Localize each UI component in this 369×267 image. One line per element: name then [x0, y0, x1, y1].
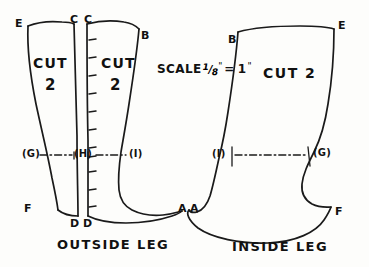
- label-point-g-outside: (G): [22, 149, 40, 159]
- label-point-a-left: A: [178, 203, 187, 214]
- scale-numerator: 1: [201, 62, 209, 72]
- left-piece-cut-count: 2: [45, 78, 55, 93]
- label-point-f-inside: F: [335, 206, 343, 217]
- label-point-c-left: C: [70, 14, 78, 25]
- right-outside-piece-inner-edge: [87, 24, 88, 216]
- right-outside-piece-cut-label: CUT: [101, 56, 136, 70]
- label-point-e-inside: E: [338, 20, 346, 31]
- inside-piece-left-edge: [197, 32, 238, 212]
- caption-outside-leg: OUTSIDE LEG: [57, 238, 169, 251]
- right-outside-piece-top-edge: [87, 21, 139, 29]
- label-point-b-inside: B: [228, 34, 237, 45]
- inside-piece-top-edge: [238, 26, 334, 32]
- left-piece-hem-edge: [58, 210, 78, 216]
- caption-inside-leg: INSIDE LEG: [232, 240, 328, 253]
- scale-value: 1: [238, 63, 247, 75]
- label-point-g-inside: (G): [313, 148, 331, 158]
- label-point-d-right: D: [83, 218, 92, 229]
- label-point-h-outside: (H): [74, 149, 92, 159]
- scale-prefix: SCALE: [157, 63, 202, 75]
- left-piece-top-edge: [28, 22, 74, 26]
- right-outside-piece-sole-edge: [88, 211, 182, 223]
- inside-piece-sole-edge: [188, 207, 331, 243]
- right-outside-piece-cut-count: 2: [110, 78, 120, 93]
- left-piece-outer-edge: [28, 26, 58, 210]
- left-piece-inner-edge: [74, 24, 78, 216]
- label-point-e-left: E: [15, 18, 23, 29]
- label-point-i-outside: (I): [129, 149, 142, 159]
- scale-inch-mark-right: ": [248, 61, 252, 71]
- scale-fraction: 1/8: [200, 63, 219, 76]
- label-point-i-inside: (I): [212, 149, 225, 159]
- pattern-drawing: [0, 0, 369, 267]
- seam-allowance-ticks: [89, 39, 96, 207]
- inside-piece-cut-label: CUT 2: [263, 66, 316, 80]
- scale-inch-mark-left: ": [218, 61, 222, 71]
- label-point-f-left: F: [24, 203, 32, 214]
- label-point-c-right: C: [84, 14, 92, 25]
- label-point-d-left: D: [70, 218, 79, 229]
- label-point-a-right: A: [190, 203, 199, 214]
- inside-piece-right-edge: [302, 29, 334, 207]
- pattern-sheet: E C C B CUT 2 CUT 2 SCALE 1/8 " = 1 " B …: [0, 0, 369, 267]
- scale-equals: =: [224, 63, 234, 75]
- label-point-b-left: B: [141, 30, 150, 41]
- scale-annotation: SCALE 1/8 " = 1 ": [157, 63, 246, 76]
- left-piece-cut-label: CUT: [33, 56, 68, 70]
